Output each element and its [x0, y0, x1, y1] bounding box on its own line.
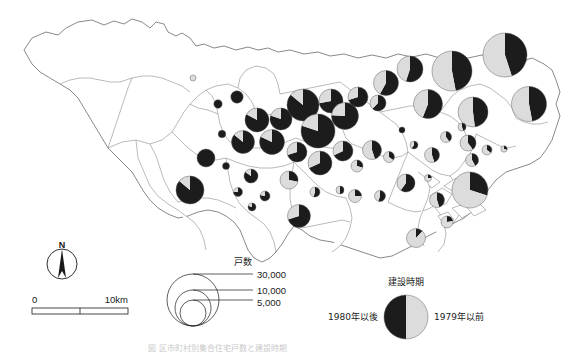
compass-label: N: [59, 240, 66, 250]
pie-marker: [512, 87, 547, 122]
scale-bar: 0 10km: [32, 294, 128, 314]
size-legend-circle-5000: [180, 300, 206, 326]
prefecture-outline-group: [24, 19, 560, 262]
pie-marker: [287, 142, 307, 162]
period-legend-label-old: 1979年以前: [434, 311, 484, 322]
pie-marker: [310, 187, 320, 197]
pie-marker: [349, 190, 362, 203]
pie-marker: [407, 229, 426, 248]
pie-marker: [482, 145, 492, 155]
pie-marker: [425, 175, 432, 182]
size-legend-circle-10000: [175, 290, 211, 326]
pie-marker: [260, 130, 285, 155]
pie-marker: [308, 151, 332, 175]
period-legend-header: 建設時期: [388, 276, 424, 287]
pie-marker: [231, 91, 243, 103]
pie-marker: [348, 87, 368, 107]
pie-marker: [397, 56, 423, 82]
pie-marker: [301, 114, 335, 148]
pie-marker: [234, 188, 243, 197]
pie-marker: [223, 163, 230, 170]
pie-marker: [218, 130, 226, 138]
pie-marker: [410, 141, 418, 149]
size-legend-label-30000: 30,000: [257, 269, 286, 280]
pie-marker: [458, 97, 488, 127]
pie-marker: [399, 127, 405, 133]
pie-marker: [336, 186, 344, 194]
period-legend: 建設時期 1980年以後 1979年以前: [328, 276, 484, 339]
pie-marker: [362, 141, 381, 160]
period-legend-swatch-old: [406, 295, 428, 339]
map-figure: N 0 10km 戸数 30,000 10,000 5,000 建設時期: [0, 0, 582, 353]
pie-marker: [441, 132, 452, 143]
pie-marker: [375, 191, 386, 202]
figure-caption: 図 区市町村別集合住宅戸数と建設時期: [148, 343, 287, 353]
pie-marker: [280, 171, 298, 189]
scalebar-end-label: 10km: [105, 294, 128, 305]
pie-marker: [483, 33, 527, 77]
pie-marker: [288, 205, 311, 228]
pie-marker: [214, 100, 222, 108]
pie-marker: [260, 191, 270, 201]
pie-marker: [370, 95, 386, 111]
period-legend-swatch-new: [384, 295, 406, 339]
pie-marker: [424, 148, 439, 163]
pie-marker: [231, 131, 254, 154]
pie-marker: [501, 146, 507, 152]
pie-marker: [190, 75, 196, 81]
pie-marker: [176, 176, 204, 204]
pie-marker: [458, 123, 466, 131]
compass-rose: N: [47, 240, 77, 279]
pie-marker: [430, 193, 445, 208]
pie-marker: [244, 169, 258, 183]
pie-marker: [432, 51, 472, 91]
pie-marker: [397, 174, 415, 192]
pie-marker: [414, 90, 443, 119]
size-legend-label-10000: 10,000: [257, 285, 286, 296]
pie-marker: [466, 154, 479, 167]
tokyo-choropleth-svg: N 0 10km 戸数 30,000 10,000 5,000 建設時期: [0, 0, 582, 353]
scalebar-start-label: 0: [32, 294, 37, 305]
pie-marker: [248, 203, 256, 211]
size-legend-header: 戸数: [234, 256, 252, 267]
period-legend-label-new: 1980年以後: [328, 311, 378, 322]
size-legend-label-5000: 5,000: [257, 297, 281, 308]
pie-marker: [333, 141, 353, 161]
pie-marker: [441, 216, 453, 228]
pie-marker: [245, 108, 269, 132]
tokyo-prefecture-outline: [24, 19, 560, 262]
pie-marker: [452, 172, 488, 208]
size-legend: 戸数 30,000 10,000 5,000: [167, 256, 286, 326]
pie-marker: [384, 152, 395, 163]
pie-marker: [460, 135, 476, 151]
pie-marker: [351, 160, 363, 172]
pie-marker: [374, 71, 399, 96]
pie-marker: [197, 149, 215, 167]
